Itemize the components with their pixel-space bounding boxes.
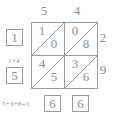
top-digit-1: 4 [71, 4, 83, 17]
right-digit-1: 9 [97, 63, 109, 76]
result-box-left-0: 1 [6, 29, 23, 46]
result-digit: 5 [11, 68, 18, 84]
cell-0-0-tens-digit: 1 [36, 24, 48, 37]
top-digit-0: 5 [38, 4, 50, 17]
result-digit: 1 [11, 30, 18, 46]
result-box-bottom-0: 6 [44, 95, 61, 112]
lattice-multiplication-diagram: 5 4 2 9 1 0 0 8 4 5 3 6 1 5 6 6 1+4 5+3+… [0, 0, 113, 119]
cell-0-1-units-digit: 8 [80, 37, 92, 50]
cell-1-1-tens-digit: 3 [69, 57, 81, 70]
cell-1-0-tens-digit: 4 [36, 57, 48, 70]
result-digit: 6 [77, 96, 84, 112]
result-digit: 6 [49, 96, 56, 112]
cell-0-0-units-digit: 0 [48, 37, 60, 50]
cell-1-1-units-digit: 6 [80, 70, 92, 83]
result-box-bottom-1: 6 [72, 95, 89, 112]
cell-1-0-units-digit: 5 [48, 70, 60, 83]
cell-0-1-tens-digit: 0 [69, 24, 81, 37]
diagonal-sum-annotation: 5+3+8=1 [2, 100, 30, 108]
carry-annotation: 1+4 [8, 57, 20, 65]
result-box-left-1: 5 [6, 67, 23, 84]
right-digit-0: 2 [97, 31, 109, 44]
